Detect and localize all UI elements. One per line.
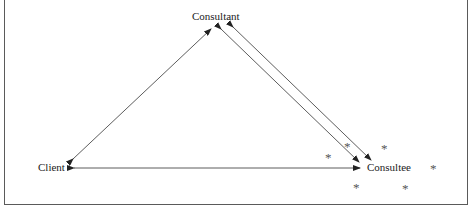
node-consultee: Consultee xyxy=(367,161,411,173)
asterisk-marker: * xyxy=(381,142,388,155)
asterisk-marker: * xyxy=(353,181,360,194)
relationship-arrows xyxy=(0,0,471,217)
asterisk-marker: * xyxy=(344,140,351,153)
client-consultant-arrow xyxy=(73,29,211,159)
consultant-consultee-arrow-1 xyxy=(221,29,359,162)
asterisk-marker: * xyxy=(402,182,409,195)
asterisk-marker: * xyxy=(325,151,332,164)
node-consultant: Consultant xyxy=(192,10,240,22)
node-client: Client xyxy=(38,161,65,173)
asterisk-marker: * xyxy=(430,162,437,175)
